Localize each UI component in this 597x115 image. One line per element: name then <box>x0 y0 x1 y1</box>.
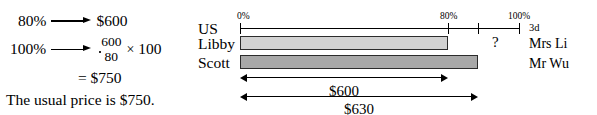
percent-80-value: 80% <box>18 12 46 29</box>
dimension-arrow-630 <box>240 92 478 101</box>
axis-tick-90 <box>478 23 479 34</box>
percent-100-value: 100% <box>10 40 46 57</box>
axis-tick-label-80: 80% <box>440 12 457 22</box>
solution-conclusion-sentence: The usual price is $750. <box>6 92 155 108</box>
row-label-scott: Scott <box>198 55 230 71</box>
worked-solution-block: 80%$600 100% 600 80 × 100 = $750 The usu… <box>0 0 196 115</box>
multiplier-100-value: 100 <box>138 40 161 57</box>
unknown-question-mark: ? <box>492 35 499 50</box>
axis-tick-label-0: 0% <box>237 12 250 22</box>
solution-line-100-percent: 100% 600 80 × 100 <box>10 36 161 66</box>
bar-scott <box>240 55 478 69</box>
axis-tick-label-100: 100% <box>508 12 530 22</box>
bar-model-diagram: US Libby Scott 3d Mrs Li Mr Wu 0% 80% 10… <box>196 0 597 115</box>
side-label-3d: 3d <box>529 23 540 34</box>
fraction-numerator: 600 <box>99 35 123 50</box>
side-label-mr-wu: Mr Wu <box>529 57 569 71</box>
axis-tick-100 <box>519 23 520 34</box>
row-label-libby: Libby <box>198 36 235 52</box>
solution-line-result: = $750 <box>78 70 122 86</box>
long-right-arrow-icon <box>51 16 91 25</box>
fraction-600-over-80: 600 80 <box>99 35 123 65</box>
long-right-arrow-icon <box>51 45 91 54</box>
dimension-label-630: $630 <box>240 102 478 115</box>
fraction-denominator: 80 <box>99 50 123 65</box>
solution-line-80-percent: 80%$600 <box>18 13 127 29</box>
amount-600-value: $600 <box>96 12 127 29</box>
dimension-arrow-600 <box>240 73 448 82</box>
axis-tick-80 <box>448 23 449 34</box>
arrow-shaft <box>245 96 473 97</box>
bar-libby <box>240 36 448 50</box>
multiplication-sign: × <box>126 42 134 57</box>
arrow-head-right-icon <box>441 74 448 82</box>
fraction-bar <box>99 51 101 53</box>
side-label-mrs-li: Mrs Li <box>529 37 568 51</box>
arrow-head-right-icon <box>471 93 478 101</box>
arrow-shaft <box>245 77 443 78</box>
axis-tick-0 <box>240 23 241 34</box>
